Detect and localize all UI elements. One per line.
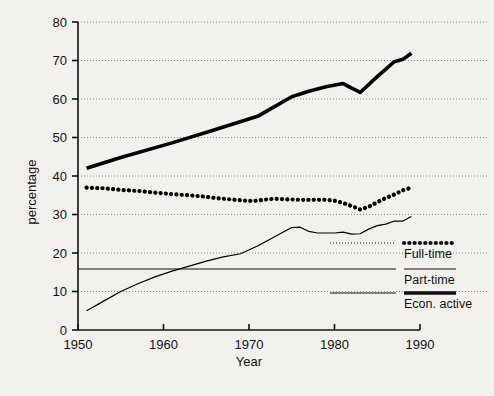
legend-label-econ-active: Econ. active: [404, 297, 472, 311]
chart-page: 01020304050607080 19501960197019801990 p…: [0, 0, 494, 396]
y-tick-label-40: 40: [53, 169, 67, 184]
y-tick-label-30: 30: [53, 207, 67, 222]
y-tick-label-10: 10: [53, 284, 67, 299]
x-tick-label-1990: 1990: [406, 337, 435, 352]
x-tick-label-1970: 1970: [235, 337, 264, 352]
y-tick-label-60: 60: [53, 92, 67, 107]
y-tick-label-20: 20: [53, 246, 67, 261]
y-axis-title: percentage: [24, 159, 39, 224]
y-tick-label-0: 0: [60, 323, 67, 338]
x-tick-label-1950: 1950: [64, 337, 93, 352]
y-axis-tick-labels: 01020304050607080: [53, 15, 67, 338]
y-tick-label-70: 70: [53, 53, 67, 68]
y-tick-label-50: 50: [53, 130, 67, 145]
legend-label-part-time: Part-time: [404, 273, 455, 287]
x-tick-label-1960: 1960: [149, 337, 178, 352]
y-tick-label-80: 80: [53, 15, 67, 30]
line-chart: 01020304050607080 19501960197019801990 p…: [0, 0, 494, 396]
x-axis-title: Year: [236, 354, 263, 369]
x-tick-label-1980: 1980: [320, 337, 349, 352]
legend-label-full-time: Full-time: [404, 247, 452, 261]
